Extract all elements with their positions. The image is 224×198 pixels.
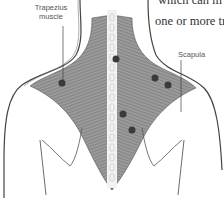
body-text-line1: which can m <box>158 0 222 8</box>
trigger-point <box>152 75 159 82</box>
trapezius-right <box>112 15 196 190</box>
trigger-point <box>165 82 172 89</box>
trigger-point <box>59 80 66 87</box>
anatomy-figure: Trapezius muscle Scapula which can m one… <box>0 0 224 198</box>
trigger-point <box>129 127 136 134</box>
scapula-label: Scapula <box>178 50 205 59</box>
trapezius-label-line2: muscle <box>30 12 72 21</box>
trapezius-label: Trapezius muscle <box>30 3 72 21</box>
back-illustration <box>0 0 224 198</box>
trigger-point <box>120 111 127 118</box>
trigger-point <box>113 56 120 63</box>
trapezius-label-line1: Trapezius <box>30 3 72 12</box>
scapula-left <box>42 128 82 166</box>
scapula-right <box>142 128 182 166</box>
body-text-line2: one or more tr <box>155 14 224 29</box>
